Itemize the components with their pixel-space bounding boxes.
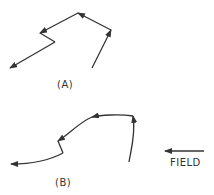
path-a-segment-1	[92, 30, 111, 68]
path-a-segment-5	[10, 42, 55, 68]
field-label: FIELD	[170, 157, 201, 168]
path-b-segment-3	[58, 117, 92, 141]
panel-b-label: (B)	[55, 177, 71, 188]
path-b-segment-1	[129, 116, 134, 162]
path-b-segment-4	[58, 141, 63, 153]
path-a-segment-2	[78, 13, 111, 30]
panel-a-label: (A)	[57, 79, 73, 90]
path-a-segment-4	[40, 33, 55, 42]
path-a-segment-3	[40, 13, 78, 33]
path-b	[11, 115, 134, 164]
path-b-segment-2	[92, 115, 133, 117]
path-b-segment-5	[11, 153, 63, 164]
path-a	[10, 13, 111, 68]
